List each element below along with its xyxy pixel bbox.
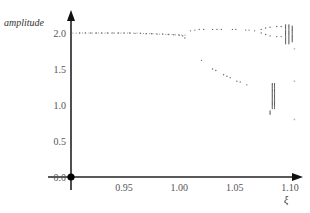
y-tick-label: 1.0: [54, 100, 67, 111]
data-point: [292, 25, 293, 26]
data-point: [182, 35, 183, 36]
data-point: [265, 34, 266, 35]
data-point: [123, 32, 124, 33]
data-point: [90, 32, 91, 33]
data-point: [280, 26, 281, 27]
data-point: [294, 48, 296, 50]
data-point: [215, 70, 216, 71]
origin-marker: [67, 173, 74, 180]
data-point: [134, 33, 135, 34]
data-point: [246, 84, 247, 85]
data-point: [230, 77, 231, 78]
x-tick-label: 1.05: [226, 182, 244, 193]
y-axis-arrow-icon: [67, 10, 75, 21]
data-point: [140, 33, 141, 34]
y-tick-label: 2.0: [54, 28, 67, 39]
data-point: [288, 24, 289, 25]
data-point: [254, 30, 255, 31]
data-point: [104, 32, 105, 33]
data-point: [101, 32, 102, 33]
data-point: [172, 34, 173, 35]
data-point: [127, 32, 128, 33]
data-point: [212, 68, 213, 69]
data-point: [149, 33, 150, 34]
data-point: [276, 36, 277, 37]
data-point: [221, 29, 222, 30]
x-axis-title: ξ: [284, 194, 289, 206]
data-point: [269, 35, 270, 36]
bifurcation-chart: 0.00.51.01.52.0 0.951.001.051.10 amplitu…: [0, 0, 310, 213]
data-point: [248, 29, 249, 30]
data-point: [232, 29, 233, 30]
x-tick-label: 0.95: [115, 182, 133, 193]
data-point: [276, 26, 277, 27]
data-point: [129, 32, 130, 33]
data-point: [184, 37, 185, 38]
data-point: [107, 32, 108, 33]
y-tick-labels: 0.00.51.01.52.0: [54, 28, 67, 183]
x-tick-labels: 0.951.001.051.10: [115, 182, 299, 193]
data-point: [269, 110, 270, 111]
data-point: [79, 32, 80, 33]
data-point: [159, 33, 160, 34]
data-point: [133, 32, 134, 33]
data-point: [274, 83, 275, 84]
data-point: [226, 76, 227, 77]
y-tick-label: 0.0: [54, 172, 67, 183]
data-point: [235, 29, 236, 30]
data-point: [199, 29, 200, 30]
y-axis-title: amplitude: [4, 17, 45, 28]
data-point: [285, 24, 286, 25]
data-point: [157, 33, 158, 34]
data-point: [151, 33, 152, 34]
data-points: [72, 24, 295, 120]
data-point: [201, 60, 202, 61]
data-point: [173, 34, 174, 35]
data-point: [111, 32, 112, 33]
y-tick-label: 1.5: [54, 64, 67, 75]
data-point: [92, 32, 93, 33]
data-point: [162, 33, 163, 34]
data-point: [261, 29, 262, 30]
data-point: [294, 119, 296, 121]
data-point: [179, 34, 180, 35]
data-point: [190, 30, 191, 31]
data-point: [245, 29, 246, 30]
data-point: [272, 83, 273, 84]
data-point: [194, 29, 195, 30]
data-point: [269, 27, 270, 28]
data-point: [145, 33, 146, 34]
data-point: [96, 32, 97, 33]
data-point: [143, 33, 144, 34]
data-point: [175, 34, 176, 35]
data-point: [76, 32, 77, 33]
y-tick-label: 0.5: [54, 136, 67, 147]
x-axis-arrow-icon: [292, 173, 303, 181]
data-point: [72, 32, 73, 33]
data-point: [280, 36, 281, 37]
data-point: [294, 80, 296, 82]
data-point: [168, 34, 169, 35]
data-point: [98, 32, 99, 33]
data-point: [120, 32, 121, 33]
data-point: [216, 29, 217, 30]
data-point: [118, 32, 119, 33]
data-point: [236, 81, 237, 82]
data-point: [152, 33, 153, 34]
data-point: [265, 27, 266, 28]
data-point: [82, 32, 83, 33]
x-tick-label: 1.00: [171, 182, 189, 193]
data-point: [261, 32, 262, 33]
data-point: [212, 29, 213, 30]
data-point: [85, 32, 86, 33]
data-point: [240, 81, 241, 82]
data-point: [223, 74, 224, 75]
data-point: [88, 32, 89, 33]
data-point: [203, 29, 204, 30]
data-point: [136, 32, 137, 33]
x-tick-label: 1.10: [281, 182, 299, 193]
data-point: [112, 32, 113, 33]
data-point: [114, 32, 115, 33]
data-point: [184, 35, 185, 36]
data-point: [165, 34, 166, 35]
